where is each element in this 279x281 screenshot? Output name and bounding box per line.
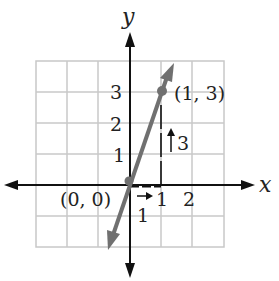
point-origin-label: (0, 0) [60, 188, 111, 210]
run-arrow-icon [137, 192, 153, 200]
y-tick-1: 1 [113, 144, 125, 166]
rise-label: 3 [177, 132, 189, 154]
line-arrow-up-icon [160, 63, 174, 82]
y-axis-down-arrow-icon [125, 263, 135, 278]
point-origin [125, 177, 134, 186]
x-tick-2: 2 [183, 188, 195, 210]
x-axis-label: x [259, 172, 272, 197]
y-axis-up-arrow-icon [125, 32, 135, 47]
y-tick-3: 3 [110, 81, 122, 103]
coordinate-plane: y x 3 2 1 1 2 (0, 0) (1, 3) 1 3 [0, 0, 279, 281]
point-1-3-label: (1, 3) [174, 82, 225, 104]
y-axis-label: y [121, 4, 135, 29]
x-axis-right-arrow-icon [241, 180, 255, 190]
x-tick-1: 1 [156, 188, 168, 210]
run-label: 1 [137, 204, 149, 226]
point-1-3 [157, 86, 167, 96]
rise-arrow-icon [167, 128, 175, 152]
x-axis-left-arrow-icon [4, 180, 18, 190]
y-tick-2: 2 [110, 113, 122, 135]
